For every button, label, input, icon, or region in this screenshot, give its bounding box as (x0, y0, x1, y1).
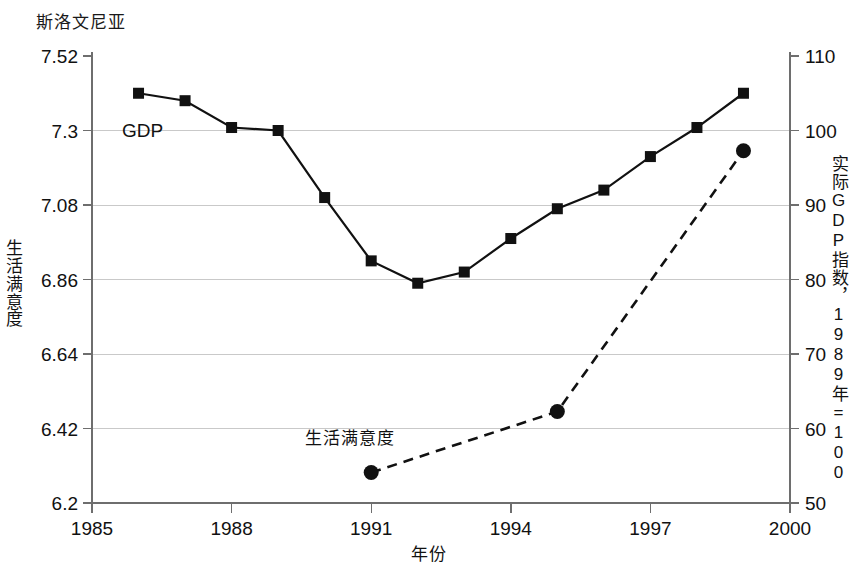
x-tick-label: 1985 (71, 518, 113, 539)
y-right-tick-label: 80 (805, 270, 826, 291)
series-gdp-marker (459, 267, 470, 278)
y-right-tick-label: 90 (805, 195, 826, 216)
x-axis-title: 年份 (411, 545, 447, 564)
chart-plot-area: 7.527.37.086.866.646.426.211010090807060… (0, 0, 858, 567)
x-tick-label: 1991 (350, 518, 392, 539)
y-left-tick-label: 6.2 (52, 493, 78, 514)
series-gdp-marker (319, 192, 330, 203)
chart-root: 斯洛文尼亚 7.527.37.086.866.646.426.211010090… (0, 0, 858, 567)
series-annotations: GDP生活满意度 (122, 120, 395, 448)
y-left-axis-title-char: 活 (6, 258, 23, 276)
series-gdp-marker (691, 122, 702, 133)
series-gdp-marker (366, 255, 377, 266)
y-left-tick-label: 7.08 (41, 195, 78, 216)
y-right-axis-title: 实际GDP指数，1989年=100 (826, 155, 851, 483)
series-life-satisfaction (364, 143, 751, 480)
x-tick-label: 2000 (769, 518, 811, 539)
series-life-marker (550, 404, 565, 419)
y-left-axis-title-char: 生 (6, 240, 23, 258)
series-gdp-marker (412, 278, 423, 289)
y-left-axis-title-char: 满 (6, 276, 23, 294)
series-label-life-satisfaction: 生活满意度 (305, 429, 395, 448)
series-life-marker (736, 143, 751, 158)
series-gdp-marker (505, 233, 516, 244)
series-gdp-line (139, 93, 744, 283)
x-tick-label: 1988 (210, 518, 252, 539)
y-right-tick-label: 50 (805, 493, 826, 514)
series-label-gdp: GDP (122, 120, 163, 141)
y-left-axis-title-char: 意 (6, 294, 23, 312)
series-gdp-marker (226, 122, 237, 133)
series-gdp-marker (552, 203, 563, 214)
x-tick-label: 1994 (490, 518, 533, 539)
y-right-tick-label: 100 (805, 121, 837, 142)
y-left-tick-label: 7.3 (52, 121, 78, 142)
series-gdp-marker (738, 88, 749, 99)
series-gdp-marker (180, 95, 191, 106)
series-gdp-marker (598, 185, 609, 196)
gridlines-group (92, 131, 790, 504)
y-left-tick-label: 7.52 (41, 46, 78, 67)
series-life-marker (364, 465, 379, 480)
x-tick-label: 1997 (629, 518, 671, 539)
y-right-tick-label: 60 (805, 419, 826, 440)
series-gdp-marker (645, 151, 656, 162)
series-life-line (371, 151, 743, 473)
y-right-tick-label: 110 (805, 46, 835, 67)
y-left-tick-label: 6.86 (41, 270, 78, 291)
y-left-axis-title-char: 度 (6, 311, 23, 329)
series-gdp-marker (273, 125, 284, 136)
x-axis-title-holder: 年份 (0, 540, 858, 565)
y-left-tick-label: 6.64 (41, 344, 78, 365)
y-left-tick-label: 6.42 (41, 419, 78, 440)
y-left-axis-title: 生活满意度 (6, 240, 23, 329)
y-right-tick-label: 70 (805, 344, 826, 365)
series-gdp (133, 88, 749, 289)
series-gdp-marker (133, 88, 144, 99)
